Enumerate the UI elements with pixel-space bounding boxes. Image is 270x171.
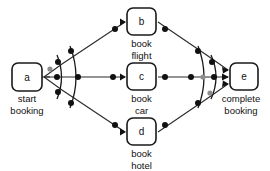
node-a-id: a xyxy=(24,72,30,83)
split-dot-lower-outer xyxy=(68,100,74,106)
edge-dot-before-c xyxy=(110,74,116,80)
process-graph: a start booking b book flight c book car… xyxy=(0,0,270,171)
node-e-id: e xyxy=(241,71,247,82)
join-dot-upper-inner xyxy=(209,59,215,65)
edge-dot-after-b xyxy=(162,26,168,32)
node-b-id: b xyxy=(139,16,145,27)
edge-dot-before-b xyxy=(112,26,118,32)
node-d-label-line1: book xyxy=(131,148,152,159)
node-e-label-line2: booking xyxy=(224,105,257,116)
node-a-label-line1: start xyxy=(18,93,37,104)
split-dot-upper-outer xyxy=(68,48,74,54)
join-dot-lower-outer xyxy=(195,100,201,106)
node-c-label-line1: book xyxy=(131,93,152,104)
diagram-canvas: a start booking b book flight c book car… xyxy=(0,0,270,171)
node-a-label-line2: booking xyxy=(10,105,43,116)
join-token-dot-gray-lower xyxy=(207,90,212,95)
node-b-label-line1: book xyxy=(131,38,152,49)
node-c-label-line2: car xyxy=(135,105,148,116)
edge-b-to-e xyxy=(158,22,228,70)
node-e[interactable]: e complete booking xyxy=(222,63,261,116)
join-dot-upper-outer xyxy=(195,48,201,54)
split-dot-lower-inner xyxy=(55,89,61,95)
node-e-label-line1: complete xyxy=(222,93,261,104)
join-dot-middle-inner xyxy=(211,74,217,80)
join-token-dot-gray xyxy=(200,74,205,79)
node-d[interactable]: d book hotel xyxy=(127,118,156,171)
node-b-label-line2: flight xyxy=(131,50,151,61)
edge-d-to-e xyxy=(158,84,228,132)
arrowhead-into-e-middle xyxy=(222,74,229,81)
join-dot-middle-outer xyxy=(188,74,194,80)
node-d-id: d xyxy=(139,126,145,137)
arrowhead-into-d xyxy=(120,129,126,136)
split-dot-middle-inner xyxy=(54,74,60,80)
node-c-id: c xyxy=(139,71,144,82)
edge-dot-before-d xyxy=(112,122,118,128)
split-token-dot-gray xyxy=(47,66,52,71)
edge-dot-after-d xyxy=(162,122,168,128)
node-a[interactable]: a start booking xyxy=(10,63,43,116)
arrowhead-into-b xyxy=(120,19,126,26)
split-dot-middle-outer xyxy=(75,74,81,80)
node-b[interactable]: b book flight xyxy=(127,8,156,61)
node-c[interactable]: c book car xyxy=(127,63,156,116)
edge-dot-after-c xyxy=(162,74,168,80)
split-dot-upper-inner xyxy=(55,59,61,65)
node-d-label-line2: hotel xyxy=(131,160,152,171)
arrowhead-into-c xyxy=(120,74,126,81)
